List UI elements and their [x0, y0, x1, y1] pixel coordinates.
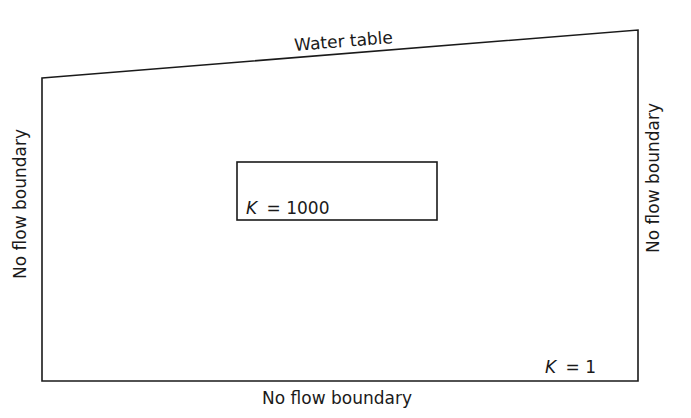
right-boundary-label: No flow boundary — [643, 103, 663, 253]
domain-k-symbol: K — [545, 357, 558, 377]
inclusion-k-value: = 1000 — [267, 198, 330, 218]
left-boundary-label: No flow boundary — [10, 129, 30, 279]
outer-domain-boundary — [42, 30, 638, 381]
bottom-boundary-label: No flow boundary — [262, 388, 412, 408]
domain-k-value: = 1 — [566, 357, 596, 377]
flow-domain-diagram: Water table No flow boundary No flow bou… — [0, 0, 691, 418]
domain-k-label: K = 1 — [545, 357, 596, 377]
inclusion-k-label: K = 1000 — [246, 198, 329, 218]
inclusion-k-symbol: K — [246, 198, 259, 218]
